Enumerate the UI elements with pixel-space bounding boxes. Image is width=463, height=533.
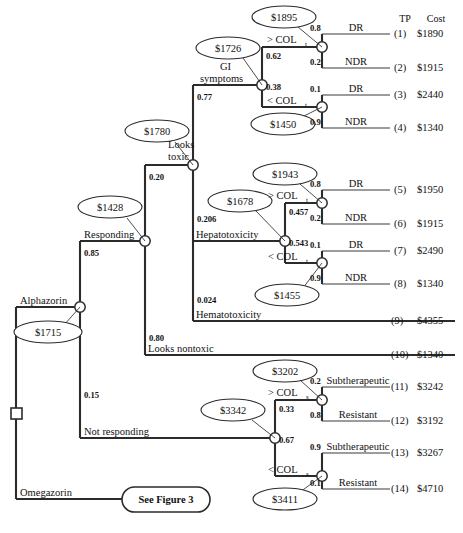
label-hep-gt-colt-text: > COL: [268, 190, 298, 201]
ev-text-responding: $1428: [97, 202, 123, 213]
see-figure-3-label: See Figure 3: [138, 494, 193, 505]
label-ndr-3: NDR: [345, 212, 367, 223]
ev-text-hep-gt-colt: $1943: [272, 169, 298, 180]
label-hep-lt-colt-sub: t: [306, 257, 308, 265]
prob-gi-lt-ndr: 0.9: [310, 117, 321, 127]
label-ndr-4: NDR: [345, 272, 367, 283]
label-alphazorin: Alphazorin: [20, 295, 68, 306]
terminal-num-1: (1): [394, 28, 407, 40]
label-subtherapeutic-2: Subtherapeutic: [327, 441, 390, 452]
label-gi-gt-colt-sub: t: [305, 40, 307, 48]
label-omegazorin: Omegazorin: [20, 487, 73, 498]
label-dr-1: DR: [349, 22, 364, 33]
prob-gi-symptoms: 0.77: [197, 92, 213, 102]
label-looks-nontoxic: Looks nontoxic: [148, 343, 214, 354]
prob-hep-lt-colt: 0.543: [289, 238, 308, 248]
leader-not-responding: [252, 420, 275, 438]
ev-text-hep-lt-colt: $1455: [274, 290, 300, 301]
prob-looks-toxic: 0.20: [149, 172, 164, 182]
decision-tree-canvas: $1895 $1726 $1450 $1780 $1428 $1943 $167…: [0, 0, 463, 533]
label-gi-symptoms-line1: GI: [220, 61, 232, 72]
terminal-num-14: (14): [391, 483, 409, 495]
prob-nr-gt-sub: 0.2: [310, 376, 321, 386]
label-nr-lt-cols-sub: s: [306, 470, 309, 478]
terminal-cost-9: $4355: [417, 315, 443, 326]
leader-gi-symptoms: [243, 58, 262, 85]
label-subtherapeutic-1: Subtherapeutic: [327, 375, 390, 386]
ev-text-alphazorin: $1715: [35, 327, 61, 338]
label-looks-toxic-line1: Looks: [168, 139, 194, 150]
ev-text-nr-lt-cols: $3411: [272, 494, 298, 505]
terminal-num-3: (3): [394, 89, 407, 101]
label-nr-gt-cols-text: > COL: [268, 387, 298, 398]
label-nr-gt-cols: > COL s: [268, 387, 309, 401]
terminal-cost-5: $1950: [417, 184, 443, 195]
label-looks-toxic-line2: toxic: [168, 151, 189, 162]
label-dr-4: DR: [349, 239, 364, 250]
terminal-num-2: (2): [394, 62, 407, 74]
terminal-num-11: (11): [391, 381, 409, 393]
prob-responding: 0.85: [84, 248, 99, 258]
prob-looks-nontoxic: 0.80: [149, 333, 164, 343]
label-not-responding: Not responding: [84, 426, 150, 437]
prob-nr-gt-cols: 0.33: [279, 404, 294, 414]
decision-tree-figure: $1895 $1726 $1450 $1780 $1428 $1943 $167…: [0, 0, 463, 533]
label-gi-symptoms-line2: symptoms: [200, 73, 243, 84]
terminal-cost-12: $3192: [417, 415, 443, 426]
terminal-cost-6: $1915: [417, 218, 443, 229]
terminal-num-7: (7): [394, 245, 407, 257]
prob-gi-lt-colt: 0.38: [266, 82, 282, 92]
column-header-cost: Cost: [427, 13, 446, 24]
label-hep-gt-colt: > COL t: [268, 190, 308, 204]
prob-hep-lt-ndr: 0.9: [310, 273, 321, 283]
label-dr-2: DR: [349, 83, 364, 94]
terminal-cost-13: $3267: [417, 447, 443, 458]
ev-text-gi-gt-colt: $1895: [271, 12, 297, 23]
prob-nr-lt-sub: 0.9: [310, 442, 321, 452]
prob-nr-lt-res: 0.1: [310, 478, 321, 488]
terminal-num-12: (12): [391, 415, 409, 427]
terminal-cost-10: $1340: [417, 349, 443, 360]
prob-nr-lt-cols: 0.67: [279, 435, 295, 445]
terminal-cost-8: $1340: [417, 278, 443, 289]
label-gi-gt-colt: > COL t: [267, 34, 307, 48]
label-gi-lt-colt-sub: t: [305, 101, 307, 109]
prob-gi-gt-colt: 0.62: [266, 51, 281, 61]
prob-gi-gt-dr: 0.8: [310, 23, 321, 33]
ev-text-hepatotoxicity: $1678: [227, 196, 253, 207]
label-nr-gt-cols-sub: s: [306, 393, 309, 401]
prob-nr-gt-res: 0.8: [310, 410, 321, 420]
prob-not-responding: 0.15: [84, 390, 99, 400]
terminal-num-10: (10): [391, 349, 409, 361]
label-dr-3: DR: [349, 178, 364, 189]
leader-hepatotoxicity: [256, 211, 285, 241]
label-gi-gt-colt-text: > COL: [267, 34, 297, 45]
ev-text-gi-symptoms: $1726: [215, 43, 241, 54]
label-ndr-1: NDR: [345, 56, 367, 67]
label-resistant-1: Resistant: [339, 409, 378, 420]
prob-hep-gt-colt: 0.457: [289, 207, 309, 217]
terminal-cost-11: $3242: [417, 381, 443, 392]
terminal-num-9: (9): [391, 315, 404, 327]
terminal-num-8: (8): [394, 278, 407, 290]
terminal-cost-1: $1890: [417, 28, 443, 39]
label-hep-gt-colt-sub: t: [306, 196, 308, 204]
terminal-num-5: (5): [394, 184, 407, 196]
label-ndr-2: NDR: [345, 116, 367, 127]
terminal-cost-4: $1340: [417, 122, 443, 133]
ev-text-looks-toxic: $1780: [144, 126, 170, 137]
ev-text-not-responding: $3342: [220, 405, 246, 416]
terminal-num-13: (13): [391, 447, 409, 459]
terminal-num-6: (6): [394, 218, 407, 230]
label-hepatotoxicity: Hepatotoxicity: [196, 229, 259, 240]
terminal-num-4: (4): [394, 122, 407, 134]
label-gi-lt-colt-text: < COL: [267, 95, 297, 106]
label-responding: Responding: [84, 229, 135, 240]
prob-hep-lt-dr: 0.1: [310, 240, 321, 250]
label-hematotoxicity: Hematotoxicity: [196, 309, 262, 320]
terminal-cost-7: $2490: [417, 245, 443, 256]
root-decision-node[interactable]: [11, 408, 22, 419]
ev-text-nr-gt-cols: $3202: [272, 366, 298, 377]
ev-text-gi-lt-colt: $1450: [270, 119, 296, 130]
prob-hematotoxicity: 0.024: [197, 295, 217, 305]
